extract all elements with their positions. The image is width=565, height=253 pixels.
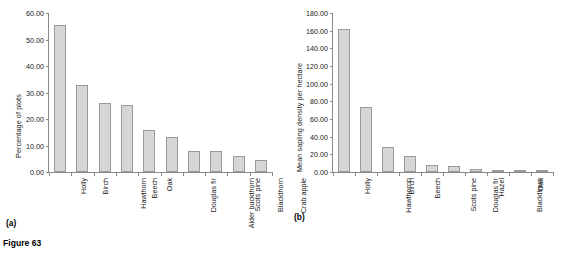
y-axis-tick <box>46 40 49 41</box>
y-axis-tick <box>46 13 49 14</box>
x-axis-tick <box>443 172 444 176</box>
y-axis-tick-label: 40.00 <box>310 132 328 141</box>
x-axis-label: Douglas fir <box>209 178 218 212</box>
y-axis-tick-label: 20.00 <box>310 150 328 159</box>
x-axis-tick <box>138 172 139 176</box>
y-axis-tick-label: 100.00 <box>306 79 328 88</box>
y-axis-tick <box>330 101 333 102</box>
y-axis-tick-label: 180.00 <box>306 9 328 18</box>
x-axis-label: Birch <box>407 178 416 194</box>
y-axis-tick-label: 80.00 <box>310 97 328 106</box>
y-axis-tick-label: 10.00 <box>26 141 44 150</box>
y-axis-tick-label: 20.00 <box>26 115 44 124</box>
x-axis-label: Blackthorn <box>276 178 285 212</box>
y-axis-title-b: Mean sapling density per hectare <box>295 63 304 172</box>
y-axis-tick-label: 40.00 <box>26 62 44 71</box>
y-axis-tick-label: 120.00 <box>306 62 328 71</box>
x-axis-tick <box>116 172 117 176</box>
bar <box>360 107 373 172</box>
bar-series-a <box>49 13 272 172</box>
x-axis-tick <box>531 172 532 176</box>
x-axis-label: Holly <box>363 178 372 194</box>
bar <box>76 85 88 172</box>
y-axis-tick-label: 30.00 <box>26 88 44 97</box>
y-axis-tick <box>46 119 49 120</box>
bar <box>448 166 461 172</box>
y-axis-tick <box>330 13 333 14</box>
x-axis-label: Scots pine <box>253 178 262 212</box>
bar <box>166 137 178 172</box>
y-axis-tick <box>46 146 49 147</box>
x-axis-tick <box>272 172 273 176</box>
x-axis-tick <box>509 172 510 176</box>
y-axis-tick-label: 160.00 <box>306 26 328 35</box>
y-axis-tick <box>330 66 333 67</box>
y-axis-tick-label: 60.00 <box>26 9 44 18</box>
bar <box>121 105 133 172</box>
chart-panel-a: Percentage of plots HollyBirchHawthornBe… <box>0 0 285 253</box>
x-axis-tick <box>421 172 422 176</box>
y-axis-tick <box>330 154 333 155</box>
bar <box>404 156 417 172</box>
bar <box>514 170 527 172</box>
y-axis-tick <box>330 84 333 85</box>
y-axis-tick-label: 50.00 <box>26 35 44 44</box>
bar <box>188 151 200 172</box>
bar <box>54 25 66 172</box>
x-axis-tick <box>250 172 251 176</box>
x-axis-label: Hazel <box>497 178 506 196</box>
y-axis-tick-label: 140.00 <box>306 44 328 53</box>
x-axis-label: Beech <box>150 178 159 198</box>
x-axis-tick <box>227 172 228 176</box>
y-axis-tick-label: 0.00 <box>314 168 328 177</box>
figure-caption: Figure 63 <box>3 238 41 248</box>
x-axis-label: Oak <box>166 178 175 191</box>
y-axis-title-a: Percentage of plots <box>14 94 23 158</box>
plot-area-a: HollyBirchHawthornBeechOakDouglas firAld… <box>48 13 272 173</box>
bar-series-b <box>333 13 553 172</box>
bar <box>233 156 245 172</box>
x-axis-tick <box>487 172 488 176</box>
x-axis-label: Hawthorn <box>139 178 148 209</box>
bar <box>426 165 439 172</box>
x-axis-tick <box>94 172 95 176</box>
x-axis-tick <box>183 172 184 176</box>
bar <box>470 169 483 172</box>
x-axis-tick <box>377 172 378 176</box>
x-axis-tick <box>355 172 356 176</box>
x-axis-tick <box>465 172 466 176</box>
figure-63: Percentage of plots HollyBirchHawthornBe… <box>0 0 565 253</box>
bar <box>382 147 395 172</box>
x-axis-label: Oak <box>536 178 545 191</box>
y-axis-tick <box>46 66 49 67</box>
chart-panel-b: Mean sapling density per hectare HollyHa… <box>285 0 565 253</box>
bar <box>255 160 267 172</box>
x-axis-tick <box>71 172 72 176</box>
x-axis-tick <box>161 172 162 176</box>
panel-label-b: (b) <box>294 212 305 222</box>
bar <box>210 151 222 172</box>
bar <box>536 170 549 172</box>
x-axis-tick <box>49 172 50 176</box>
y-axis-tick <box>46 93 49 94</box>
x-axis-tick <box>333 172 334 176</box>
x-axis-tick <box>399 172 400 176</box>
y-axis-tick <box>330 119 333 120</box>
y-axis-tick <box>330 48 333 49</box>
x-axis-label: Holly <box>79 178 88 194</box>
bar <box>143 130 155 172</box>
x-axis-label: Beech <box>433 178 442 198</box>
panel-label-a: (a) <box>6 218 16 228</box>
y-axis-tick <box>330 137 333 138</box>
x-axis-label: Birch <box>102 178 111 194</box>
bar <box>492 170 505 172</box>
x-axis-tick <box>205 172 206 176</box>
x-axis-tick <box>553 172 554 176</box>
y-axis-tick-label: 60.00 <box>310 115 328 124</box>
plot-area-b: HollyHawthornhBirchBeechScots pineDougla… <box>332 13 553 173</box>
bar <box>99 103 111 172</box>
y-axis-tick-label: 0.00 <box>30 168 44 177</box>
x-axis-label: Scots pine <box>469 178 478 212</box>
y-axis-tick <box>330 31 333 32</box>
bar <box>338 29 351 172</box>
